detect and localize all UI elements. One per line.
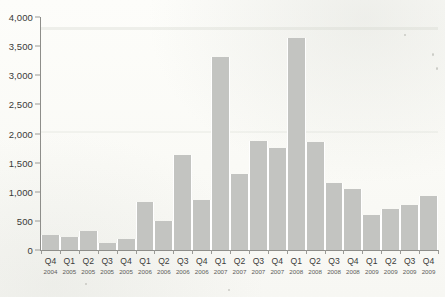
bar: [381, 209, 400, 250]
x-axis-tick-mark: [325, 250, 326, 254]
x-axis-category-label: Q42006: [195, 256, 209, 276]
x-axis-quarter-label: Q3: [176, 256, 190, 267]
x-axis-year-label: 2009: [365, 267, 379, 276]
x-axis-year-label: 2007: [214, 267, 228, 276]
x-axis-category-label: Q42007: [270, 256, 284, 276]
x-axis-tick-mark: [211, 250, 212, 254]
bar: [230, 174, 249, 250]
x-axis-quarter-label: Q2: [157, 256, 171, 267]
x-axis-quarter-label: Q2: [233, 256, 247, 267]
x-axis-tick-mark: [419, 250, 420, 254]
x-axis-year-label: 2009: [403, 267, 417, 276]
x-axis-category-label: Q32006: [176, 256, 190, 276]
x-axis-quarter-label: Q4: [346, 256, 360, 267]
x-axis-category-label: Q42009: [422, 256, 436, 276]
x-axis-tick-mark: [60, 250, 61, 254]
x-axis-year-label: 2009: [422, 267, 436, 276]
x-axis-category-label: Q32009: [403, 256, 417, 276]
x-axis-quarter-label: Q1: [138, 256, 152, 267]
x-axis-quarter-label: Q4: [195, 256, 209, 267]
y-axis-tick-label: 3,000: [9, 70, 33, 81]
x-axis-tick-mark: [230, 250, 231, 254]
x-axis-tick-mark: [381, 250, 382, 254]
x-axis-year-label: 2008: [308, 267, 322, 276]
x-axis-category-label: Q22008: [308, 256, 322, 276]
x-axis-quarter-label: Q3: [403, 256, 417, 267]
x-axis-tick-mark: [287, 250, 288, 254]
bar: [173, 155, 192, 250]
x-axis-quarter-label: Q3: [100, 256, 114, 267]
x-axis-category-label: Q22007: [233, 256, 247, 276]
x-axis-year-label: 2008: [327, 267, 341, 276]
x-axis-tick-mark: [343, 250, 344, 254]
x-axis-quarter-label: Q4: [119, 256, 133, 267]
y-axis-tick-label: 500: [17, 215, 33, 226]
x-axis-tick-mark: [268, 250, 269, 254]
bar: [136, 202, 155, 250]
bar: [287, 38, 306, 250]
y-axis-tick-label: 2,000: [9, 128, 33, 139]
x-axis-category-label: Q32007: [252, 256, 266, 276]
x-axis-year-label: 2009: [384, 267, 398, 276]
x-axis-category-label: Q42004: [44, 256, 58, 276]
bar: [306, 142, 325, 250]
x-axis-category-label: Q12006: [138, 256, 152, 276]
x-axis-quarter-label: Q1: [365, 256, 379, 267]
bar: [268, 148, 287, 250]
x-axis-category-label: Q42008: [346, 256, 360, 276]
x-axis-tick-mark: [98, 250, 99, 254]
y-axis-tick-label: 0: [28, 245, 33, 256]
x-axis-year-label: 2006: [157, 267, 171, 276]
bar: [362, 215, 381, 250]
bar: [211, 57, 230, 250]
x-axis-quarter-label: Q1: [289, 256, 303, 267]
x-axis-quarter-label: Q1: [62, 256, 76, 267]
x-axis-tick-mark: [400, 250, 401, 254]
y-axis-labels: 05001,0001,5002,0002,5003,0003,5004,000: [0, 0, 40, 260]
x-axis-quarter-label: Q4: [44, 256, 58, 267]
bar: [419, 196, 438, 250]
x-axis-quarter-label: Q2: [308, 256, 322, 267]
x-axis-quarter-label: Q2: [81, 256, 95, 267]
bar: [79, 231, 98, 250]
plot-area: [41, 17, 438, 250]
bar: [154, 221, 173, 250]
x-axis-tick-mark: [192, 250, 193, 254]
x-axis-tick-mark: [136, 250, 137, 254]
x-axis-year-label: 2005: [62, 267, 76, 276]
y-axis-tick-label: 1,000: [9, 186, 33, 197]
x-axis-quarter-label: Q3: [252, 256, 266, 267]
x-axis-quarter-label: Q3: [327, 256, 341, 267]
x-axis-labels: Q42004Q12005Q22005Q32005Q42005Q12006Q220…: [41, 256, 438, 286]
x-axis-tick-mark: [41, 250, 42, 254]
bar: [117, 239, 136, 250]
x-axis-category-label: Q22006: [157, 256, 171, 276]
x-axis-tick-mark: [306, 250, 307, 254]
x-axis-quarter-label: Q2: [384, 256, 398, 267]
x-axis-year-label: 2008: [346, 267, 360, 276]
x-axis-tick-mark: [249, 250, 250, 254]
bar-chart: 05001,0001,5002,0002,5003,0003,5004,000 …: [0, 0, 445, 297]
x-axis-year-label: 2008: [289, 267, 303, 276]
bar: [41, 235, 60, 250]
x-axis-category-label: Q32008: [327, 256, 341, 276]
x-axis-category-label: Q12007: [214, 256, 228, 276]
x-axis-tick-mark: [117, 250, 118, 254]
x-axis-year-label: 2005: [100, 267, 114, 276]
bar: [60, 237, 79, 250]
scan-speck-5: [228, 289, 230, 291]
x-axis-year-label: 2004: [44, 267, 58, 276]
x-axis-quarter-label: Q1: [214, 256, 228, 267]
x-axis-tick-mark: [362, 250, 363, 254]
x-axis-quarter-label: Q4: [270, 256, 284, 267]
bar: [192, 200, 211, 250]
x-axis-category-label: Q12008: [289, 256, 303, 276]
x-axis-year-label: 2005: [119, 267, 133, 276]
x-axis-category-label: Q22005: [81, 256, 95, 276]
bar: [343, 189, 362, 250]
x-axis-year-label: 2005: [81, 267, 95, 276]
bar: [249, 141, 268, 251]
x-axis-year-label: 2006: [176, 267, 190, 276]
x-axis-category-label: Q42005: [119, 256, 133, 276]
plot-wrapper: 05001,0001,5002,0002,5003,0003,5004,000 …: [0, 0, 445, 297]
